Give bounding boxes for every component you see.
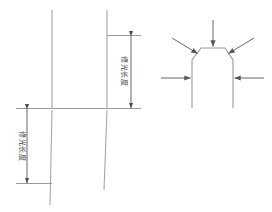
profile-outline — [192, 48, 233, 108]
left-elevation-view — [16, 10, 141, 205]
upper-right-arrow — [229, 38, 255, 54]
lower-left-slanted-line — [50, 110, 52, 205]
drawing-svg — [0, 0, 272, 212]
right-section-view — [161, 20, 264, 108]
engineering-drawing-canvas: 修光长度 修光长度 — [0, 0, 272, 212]
upper-left-arrow — [172, 38, 198, 54]
lower-right-slanted-line — [104, 110, 107, 190]
left-dimension-label: 修光长度 — [18, 126, 26, 166]
right-dimension-label: 修光长度 — [120, 51, 128, 91]
